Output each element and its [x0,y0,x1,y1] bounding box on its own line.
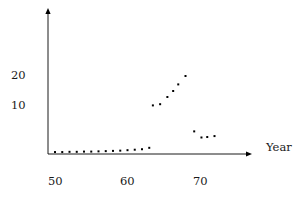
data-point [90,151,92,153]
y-axis-arrowhead [45,8,50,14]
x-tick-label-70: 70 [193,176,208,188]
data-point [148,147,150,149]
data-point [83,151,85,153]
data-point [166,96,168,98]
data-point [177,83,179,85]
data-point [61,151,63,153]
y-tick-label-10: 10 [11,100,26,112]
data-point [214,135,216,137]
data-point [76,151,78,153]
data-point [105,150,107,152]
x-axis-arrowhead [246,151,252,156]
data-point [206,136,208,138]
axes-group [45,8,252,157]
data-points-group [54,75,216,153]
data-point [200,136,202,138]
y-tick-label-20: 20 [11,70,26,82]
data-point [134,149,136,151]
scatter-chart: 20 10 50 60 70 Year [0,0,305,206]
data-point [193,130,195,132]
plot-canvas [0,0,305,206]
data-point [185,75,187,77]
data-point [159,103,161,105]
data-point [152,104,154,106]
data-point [112,150,114,152]
data-point [172,90,174,92]
data-point [98,150,100,152]
data-point [69,151,71,153]
data-point [127,149,129,151]
data-point [141,148,143,150]
data-point [54,151,56,153]
x-tick-label-50: 50 [48,176,63,188]
data-point [119,150,121,152]
x-axis-title: Year [266,142,292,154]
x-tick-label-60: 60 [120,176,135,188]
